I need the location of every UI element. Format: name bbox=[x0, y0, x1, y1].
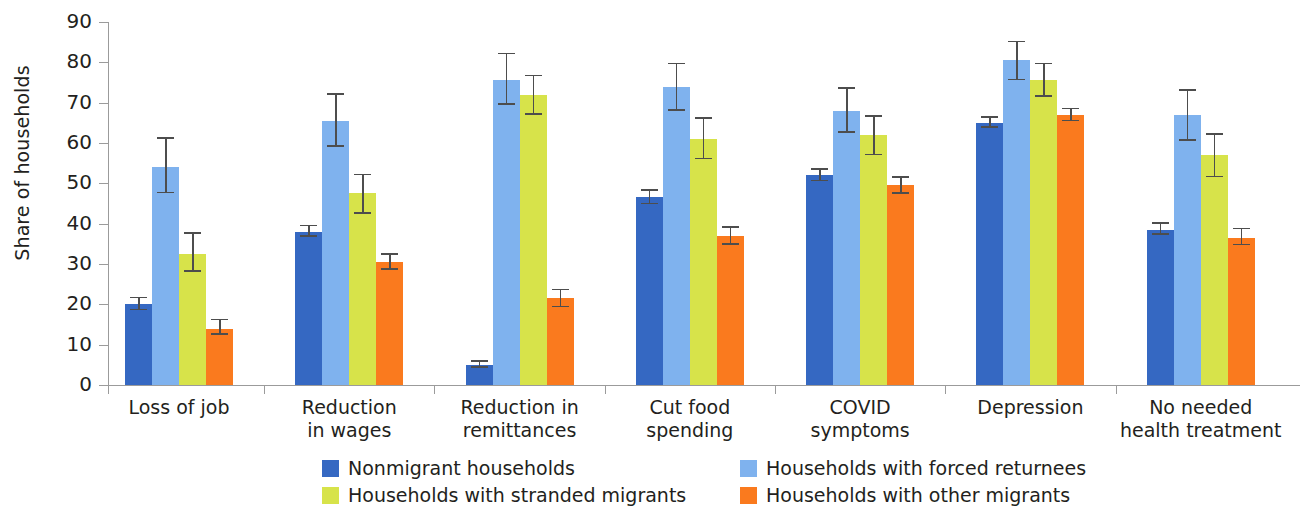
bar[interactable] bbox=[887, 185, 914, 385]
bar[interactable] bbox=[1174, 115, 1201, 385]
error-bar-cap-upper bbox=[157, 137, 174, 139]
bar-item[interactable] bbox=[493, 22, 520, 385]
error-bar-cap-upper bbox=[1233, 228, 1250, 230]
bar-item[interactable] bbox=[690, 22, 717, 385]
bar[interactable] bbox=[152, 167, 179, 385]
error-bar-cap-upper bbox=[354, 174, 371, 176]
error-bar-cap-lower bbox=[157, 192, 174, 194]
bar[interactable] bbox=[833, 111, 860, 385]
bar-chart: Share of households 0102030405060708090 … bbox=[0, 0, 1307, 517]
bar[interactable] bbox=[1057, 115, 1084, 385]
bar-item[interactable] bbox=[976, 22, 1003, 385]
bar-item[interactable] bbox=[833, 22, 860, 385]
bar[interactable] bbox=[322, 121, 349, 385]
bar-item[interactable] bbox=[1228, 22, 1255, 385]
bar-group bbox=[1147, 22, 1255, 385]
bar-item[interactable] bbox=[520, 22, 547, 385]
error-bar-cap-lower bbox=[1206, 176, 1223, 178]
error-bar bbox=[165, 139, 167, 193]
legend-item-nonmigrant-households[interactable]: Nonmigrant households bbox=[322, 458, 575, 479]
y-axis-tick-label: 60 bbox=[67, 131, 92, 153]
bar[interactable] bbox=[860, 135, 887, 385]
bar[interactable] bbox=[547, 298, 574, 385]
error-bar-cap-lower bbox=[1152, 233, 1169, 235]
error-bar-cap-upper bbox=[695, 117, 712, 119]
legend-swatch-icon bbox=[322, 487, 339, 504]
error-bar-cap-upper bbox=[211, 319, 228, 321]
bar-item[interactable] bbox=[806, 22, 833, 385]
bar-item[interactable] bbox=[322, 22, 349, 385]
error-bar-cap-lower bbox=[211, 333, 228, 335]
error-bar bbox=[506, 54, 508, 104]
error-bar bbox=[846, 89, 848, 133]
error-bar-cap-lower bbox=[838, 131, 855, 133]
bar[interactable] bbox=[1228, 238, 1255, 385]
bar-item[interactable] bbox=[349, 22, 376, 385]
bar-item[interactable] bbox=[1030, 22, 1057, 385]
bar-item[interactable] bbox=[1057, 22, 1084, 385]
error-bar-cap-lower bbox=[471, 366, 488, 368]
y-axis-tick: 10 bbox=[99, 345, 108, 346]
bar[interactable] bbox=[806, 175, 833, 385]
error-bar-cap-lower bbox=[552, 306, 569, 308]
legend-swatch-icon bbox=[740, 460, 757, 477]
bar[interactable] bbox=[636, 197, 663, 385]
bar-item[interactable] bbox=[887, 22, 914, 385]
bar-item[interactable] bbox=[466, 22, 493, 385]
error-bar-cap-lower bbox=[498, 103, 515, 105]
bar-item[interactable] bbox=[1147, 22, 1174, 385]
bar-item[interactable] bbox=[717, 22, 744, 385]
bar[interactable] bbox=[179, 254, 206, 385]
bar-item[interactable] bbox=[206, 22, 233, 385]
x-axis-tick bbox=[264, 385, 265, 394]
bar[interactable] bbox=[206, 329, 233, 385]
bar-item[interactable] bbox=[179, 22, 206, 385]
bar[interactable] bbox=[1030, 80, 1057, 385]
bar-item[interactable] bbox=[1174, 22, 1201, 385]
bar[interactable] bbox=[349, 193, 376, 385]
legend-item-stranded-migrants[interactable]: Households with stranded migrants bbox=[322, 485, 686, 506]
y-axis-title: Share of households bbox=[11, 33, 33, 293]
bar-item[interactable] bbox=[295, 22, 322, 385]
x-axis-label-line: health treatment bbox=[1101, 419, 1301, 442]
bar-item[interactable] bbox=[547, 22, 574, 385]
y-axis-tick-label: 30 bbox=[67, 252, 92, 274]
bar[interactable] bbox=[663, 87, 690, 385]
legend-item-label: Households with forced returnees bbox=[766, 458, 1086, 479]
bar-item[interactable] bbox=[125, 22, 152, 385]
bar-item[interactable] bbox=[636, 22, 663, 385]
error-bar-cap-lower bbox=[695, 158, 712, 160]
bar[interactable] bbox=[976, 123, 1003, 385]
legend-item-other-migrants[interactable]: Households with other migrants bbox=[740, 485, 1070, 506]
bar-item[interactable] bbox=[1201, 22, 1228, 385]
bar[interactable] bbox=[1201, 155, 1228, 385]
bar[interactable] bbox=[376, 262, 403, 385]
bar[interactable] bbox=[1003, 60, 1030, 385]
bar-item[interactable] bbox=[152, 22, 179, 385]
bar[interactable] bbox=[520, 95, 547, 385]
x-axis-tick bbox=[605, 385, 606, 394]
y-axis-tick: 20 bbox=[99, 304, 108, 305]
bar-item[interactable] bbox=[1003, 22, 1030, 385]
x-axis-label-line: symptoms bbox=[760, 419, 960, 442]
y-axis-tick: 80 bbox=[99, 62, 108, 63]
bar[interactable] bbox=[493, 80, 520, 385]
legend-item-label: Nonmigrant households bbox=[348, 458, 575, 479]
bar[interactable] bbox=[690, 139, 717, 385]
bar[interactable] bbox=[717, 236, 744, 385]
error-bar-cap-upper bbox=[865, 115, 882, 117]
error-bar-cap-upper bbox=[668, 63, 685, 65]
bar[interactable] bbox=[1147, 230, 1174, 385]
error-bar-cap-lower bbox=[865, 154, 882, 156]
bar[interactable] bbox=[125, 304, 152, 385]
error-bar-cap-lower bbox=[641, 203, 658, 205]
bar-item[interactable] bbox=[663, 22, 690, 385]
y-axis-tick: 90 bbox=[99, 22, 108, 23]
legend-item-forced-returnees[interactable]: Households with forced returnees bbox=[740, 458, 1086, 479]
bar-item[interactable] bbox=[860, 22, 887, 385]
bar-item[interactable] bbox=[376, 22, 403, 385]
error-bar bbox=[873, 117, 875, 155]
error-bar-cap-lower bbox=[892, 192, 909, 194]
bar[interactable] bbox=[295, 232, 322, 385]
y-axis-tick: 50 bbox=[99, 183, 108, 184]
